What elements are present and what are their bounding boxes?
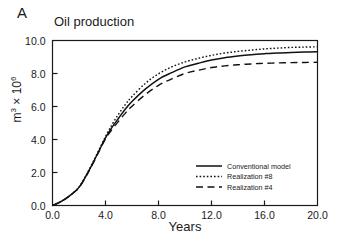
y-axis-label-mult: × 10 xyxy=(10,81,24,108)
y-axis-tick-label: 4.0 xyxy=(31,134,46,146)
y-axis-tick-label: 10.0 xyxy=(25,35,46,47)
legend-label: Realization #8 xyxy=(227,172,273,181)
y-axis-label-base: m xyxy=(10,112,24,122)
legend-label: Realization #4 xyxy=(227,183,273,192)
y-axis-label: m3 × 106 xyxy=(9,40,24,160)
figure: A Oil production m3 × 106 Years 0.02.04.… xyxy=(0,0,341,244)
series-line xyxy=(53,62,318,205)
x-axis-label: Years xyxy=(52,219,318,234)
panel-label: A xyxy=(17,4,27,21)
y-axis-tick-label: 0.0 xyxy=(31,200,46,212)
y-axis-tick-label: 2.0 xyxy=(31,167,46,179)
plot-area: 0.02.04.06.08.010.00.04.08.012.016.020.0… xyxy=(0,0,341,244)
series-line xyxy=(53,47,318,206)
y-axis-label-mult-exponent: 6 xyxy=(9,77,18,81)
y-axis-tick-label: 6.0 xyxy=(31,101,46,113)
series-line xyxy=(53,52,318,206)
legend-label: Conventional model xyxy=(227,162,291,171)
y-axis-tick-label: 8.0 xyxy=(31,68,46,80)
y-axis-label-exponent: 3 xyxy=(9,108,18,112)
plot-frame xyxy=(53,41,318,206)
chart-title: Oil production xyxy=(54,14,134,29)
